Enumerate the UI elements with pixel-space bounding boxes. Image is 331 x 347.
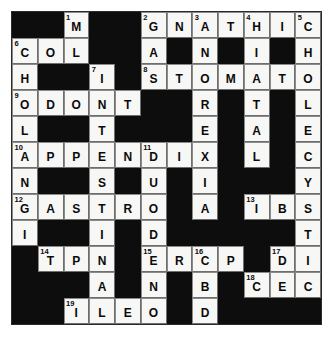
crossword-block-cell <box>218 298 244 324</box>
crossword-cell[interactable]: L <box>12 116 38 142</box>
crossword-cell[interactable]: 16C <box>192 246 218 272</box>
crossword-cell[interactable]: 9O <box>12 90 38 116</box>
crossword-cell[interactable]: B <box>270 194 296 220</box>
crossword-cell[interactable]: N <box>12 168 38 194</box>
crossword-cell[interactable]: A <box>244 116 270 142</box>
crossword-cell[interactable]: B <box>192 272 218 298</box>
crossword-cell[interactable]: I <box>89 220 115 246</box>
crossword-block-cell <box>218 220 244 246</box>
crossword-cell[interactable]: 1M <box>64 12 90 38</box>
crossword-cell[interactable]: U <box>141 168 167 194</box>
cell-letter: T <box>39 255 63 268</box>
crossword-block-cell <box>38 272 64 298</box>
crossword-cell[interactable]: N <box>89 90 115 116</box>
crossword-cell[interactable]: 8S <box>141 64 167 90</box>
crossword-cell[interactable]: T <box>295 220 321 246</box>
crossword-cell[interactable]: 15E <box>141 246 167 272</box>
crossword-cell[interactable]: X <box>192 142 218 168</box>
crossword-cell[interactable]: E <box>270 272 296 298</box>
crossword-cell[interactable]: H <box>295 38 321 64</box>
crossword-cell[interactable]: I <box>167 142 193 168</box>
crossword-cell[interactable]: L <box>64 38 90 64</box>
crossword-cell[interactable]: 17D <box>270 246 296 272</box>
crossword-cell[interactable]: O <box>295 64 321 90</box>
crossword-cell[interactable]: R <box>167 246 193 272</box>
crossword-cell[interactable]: 3A <box>192 12 218 38</box>
crossword-cell[interactable]: O <box>38 38 64 64</box>
crossword-cell[interactable]: R <box>115 194 141 220</box>
crossword-cell[interactable]: 18C <box>244 272 270 298</box>
cell-letter: I <box>13 229 37 242</box>
crossword-cell[interactable]: S <box>89 168 115 194</box>
crossword-cell[interactable]: T <box>89 194 115 220</box>
crossword-cell[interactable]: L <box>244 142 270 168</box>
crossword-cell[interactable]: L <box>89 298 115 324</box>
crossword-cell[interactable]: I <box>192 168 218 194</box>
crossword-cell[interactable]: 7I <box>89 64 115 90</box>
crossword-cell[interactable]: E <box>115 298 141 324</box>
crossword-cell[interactable]: P <box>64 142 90 168</box>
crossword-cell[interactable]: 5C <box>295 12 321 38</box>
crossword-cell[interactable]: 19I <box>64 298 90 324</box>
crossword-cell[interactable]: S <box>295 194 321 220</box>
crossword-cell[interactable]: E <box>192 116 218 142</box>
crossword-cell[interactable]: T <box>115 90 141 116</box>
crossword-cell[interactable]: 4H <box>244 12 270 38</box>
crossword-cell[interactable]: P <box>38 142 64 168</box>
crossword-cell[interactable]: C <box>295 272 321 298</box>
crossword-block-cell <box>38 298 64 324</box>
crossword-cell[interactable]: D <box>192 298 218 324</box>
crossword-cell[interactable]: D <box>141 220 167 246</box>
crossword-cell[interactable]: N <box>89 246 115 272</box>
crossword-cell[interactable]: T <box>89 116 115 142</box>
crossword-cell[interactable]: E <box>89 142 115 168</box>
crossword-block-cell <box>167 298 193 324</box>
crossword-block-cell <box>192 220 218 246</box>
crossword-cell[interactable]: A <box>192 194 218 220</box>
crossword-cell[interactable]: E <box>295 116 321 142</box>
cell-letter: X <box>193 151 217 164</box>
crossword-cell[interactable]: 14T <box>38 246 64 272</box>
crossword-cell[interactable]: T <box>167 64 193 90</box>
crossword-cell[interactable]: T <box>244 90 270 116</box>
crossword-cell[interactable]: R <box>192 90 218 116</box>
crossword-cell[interactable]: 11D <box>141 142 167 168</box>
crossword-cell[interactable]: 6C <box>12 38 38 64</box>
crossword-cell[interactable]: P <box>64 246 90 272</box>
crossword-cell[interactable]: O <box>192 64 218 90</box>
crossword-cell[interactable]: I <box>244 38 270 64</box>
crossword-cell[interactable]: A <box>38 194 64 220</box>
crossword-block-cell <box>218 90 244 116</box>
crossword-cell[interactable]: Y <box>295 168 321 194</box>
crossword-cell[interactable]: I <box>12 220 38 246</box>
crossword-cell[interactable]: O <box>141 298 167 324</box>
crossword-cell[interactable]: I <box>295 246 321 272</box>
crossword-cell[interactable]: T <box>270 64 296 90</box>
crossword-cell[interactable]: 13I <box>244 194 270 220</box>
crossword-cell[interactable]: C <box>295 142 321 168</box>
crossword-cell[interactable]: A <box>141 38 167 64</box>
crossword-cell[interactable]: A <box>244 64 270 90</box>
crossword-cell[interactable]: O <box>64 90 90 116</box>
crossword-cell[interactable]: P <box>218 246 244 272</box>
crossword-cell[interactable]: 10A <box>12 142 38 168</box>
crossword-block-cell <box>12 246 38 272</box>
crossword-cell[interactable]: D <box>38 90 64 116</box>
crossword-block-cell <box>270 220 296 246</box>
crossword-cell[interactable]: A <box>89 272 115 298</box>
crossword-cell[interactable]: N <box>167 12 193 38</box>
crossword-block-cell <box>12 12 38 38</box>
crossword-cell[interactable]: 2G <box>141 12 167 38</box>
crossword-cell[interactable]: 12G <box>12 194 38 220</box>
crossword-cell[interactable]: O <box>141 194 167 220</box>
crossword-block-cell <box>38 168 64 194</box>
crossword-cell[interactable]: N <box>141 272 167 298</box>
crossword-cell[interactable]: M <box>218 64 244 90</box>
crossword-cell[interactable]: N <box>192 38 218 64</box>
crossword-cell[interactable]: S <box>64 194 90 220</box>
crossword-cell[interactable]: H <box>12 64 38 90</box>
crossword-cell[interactable]: I <box>270 12 296 38</box>
crossword-cell[interactable]: T <box>218 12 244 38</box>
crossword-cell[interactable]: N <box>115 142 141 168</box>
crossword-cell[interactable]: L <box>295 90 321 116</box>
